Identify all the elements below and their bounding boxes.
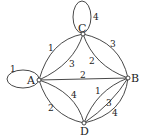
graph-diagram: A B C D 1 4 1 3 2 3 2 2 4 1 3 4 [0,0,148,138]
weight-a-d-inner: 4 [71,90,77,100]
weight-a-b: 2 [80,70,86,80]
edge-a-c-outer [39,34,83,80]
weight-c-b-outer: 3 [110,39,116,49]
weight-d-b-outer: 4 [112,108,118,118]
node-label-a: A [26,74,36,87]
node-label-c: C [78,22,86,35]
node-b [126,76,130,80]
weight-c-loop: 4 [93,12,99,22]
weight-d-b-inner: 1 [95,86,101,96]
edge-a-c-inner [39,34,83,80]
weight-a-c-inner: 3 [69,59,75,69]
node-label-d: D [80,125,89,138]
weight-a-c-outer: 1 [48,43,54,53]
weight-a-loop: 1 [10,64,16,74]
weight-a-d-outer: 2 [48,103,54,113]
node-a [37,78,41,82]
weight-c-b-inner: 2 [89,56,95,66]
edge-a-d-inner [39,80,84,123]
weight-d-b-middle: 3 [106,98,112,108]
node-label-b: B [131,72,139,85]
edge-a-d-outer [39,80,84,123]
